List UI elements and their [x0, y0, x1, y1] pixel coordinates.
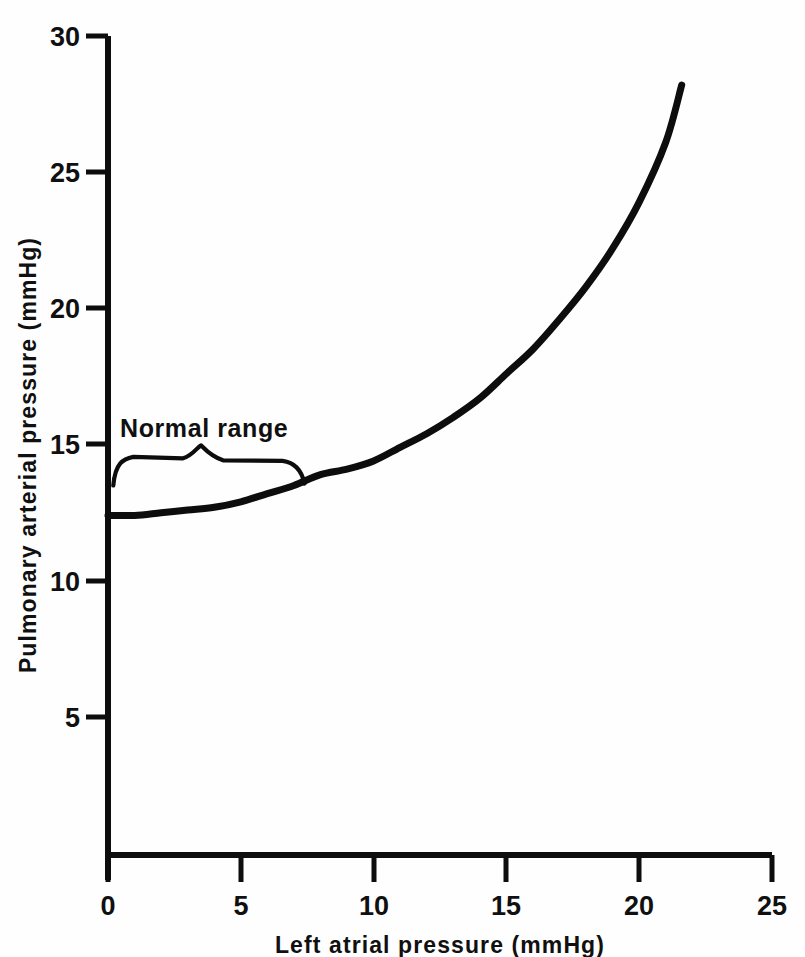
x-tick-label-5: 5 — [233, 891, 248, 921]
x-tick-label-10: 10 — [359, 891, 389, 921]
chart-figure: 30 25 20 15 10 5 Pulmonary arterial pres… — [0, 0, 805, 957]
y-axis-title: Pulmonary arterial pressure (mmHg) — [15, 237, 41, 673]
y-tick-label-15: 15 — [50, 430, 80, 460]
x-tick-label-20: 20 — [624, 891, 654, 921]
x-axis: 0 5 10 15 20 25 Left atrial pressure (mm… — [100, 855, 787, 957]
line-chart: 30 25 20 15 10 5 Pulmonary arterial pres… — [0, 0, 805, 957]
normal-range-label: Normal range — [120, 414, 288, 442]
x-tick-label-25: 25 — [757, 891, 787, 921]
y-tick-label-5: 5 — [65, 703, 80, 733]
y-tick-label-10: 10 — [50, 567, 80, 597]
y-tick-label-30: 30 — [50, 22, 80, 52]
y-tick-label-25: 25 — [50, 158, 80, 188]
x-tick-label-15: 15 — [491, 891, 521, 921]
x-tick-label-0: 0 — [100, 891, 115, 921]
x-axis-title: Left atrial pressure (mmHg) — [275, 932, 605, 957]
y-axis: 30 25 20 15 10 5 Pulmonary arterial pres… — [15, 22, 108, 880]
normal-range-brace-icon — [113, 445, 304, 485]
y-tick-label-20: 20 — [50, 294, 80, 324]
